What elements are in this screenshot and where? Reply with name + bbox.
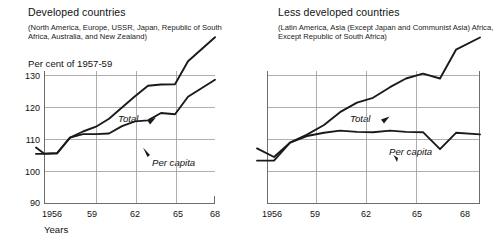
chart-panel-developed-countries: Developed countries (North America, Euro… [0, 0, 250, 247]
plot-area-right [250, 0, 500, 247]
axis-lines-right [267, 71, 480, 204]
series-line-per-capita-right [257, 131, 480, 161]
series-line-per-capita-left [36, 80, 215, 154]
pointer-arrow-total-right [381, 117, 390, 124]
series-line-total-right [257, 38, 480, 158]
x-gridlines-left [97, 71, 177, 203]
x-gridlines-right [317, 71, 417, 203]
series-line-total-left [36, 37, 215, 153]
plot-area-left [0, 0, 250, 247]
pointer-arrow-per-capita-left [143, 148, 150, 158]
chart-panel-less-developed-countries: Less developed countries (Latin America,… [250, 0, 500, 247]
pointer-arrow-per-capita-right [394, 155, 399, 162]
figure-root: Developed countries (North America, Euro… [0, 0, 500, 247]
y-gridlines-right [267, 76, 480, 172]
